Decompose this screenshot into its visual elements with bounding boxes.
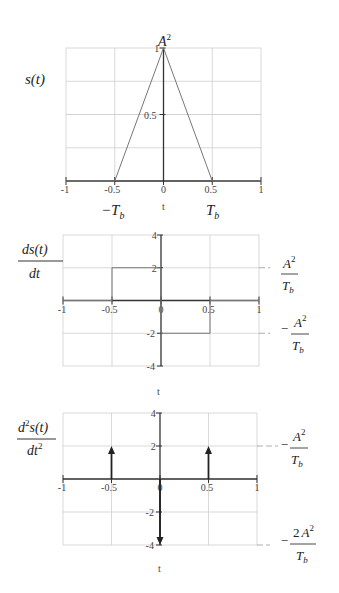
plot3-neg-sign: − bbox=[280, 533, 289, 548]
plot3-labels: d2s(t) dt2 − A2 Tb − 2A2 Tb t bbox=[0, 0, 339, 593]
plot3-pos-label-num: A2 bbox=[292, 427, 305, 444]
plot3-neg-label-den: Tb bbox=[296, 548, 308, 565]
plot3-ylabel-num: d2s(t) bbox=[18, 418, 49, 436]
plot3-xlabel: t bbox=[158, 563, 161, 574]
plot3-pos-sign: − bbox=[280, 437, 289, 452]
plot3-neg-label-num: 2A2 bbox=[293, 523, 314, 540]
plot3-pos-label-den: Tb bbox=[291, 452, 303, 469]
plot3-ylabel-den: dt2 bbox=[27, 441, 42, 458]
